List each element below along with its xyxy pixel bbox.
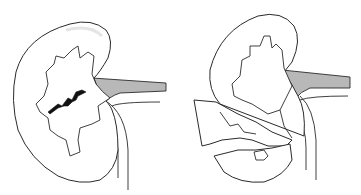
kidney-lower-fragment — [214, 144, 292, 182]
kidney-right-illustration — [180, 0, 361, 195]
figure — [0, 0, 361, 195]
kidney-left-illustration — [0, 0, 180, 195]
